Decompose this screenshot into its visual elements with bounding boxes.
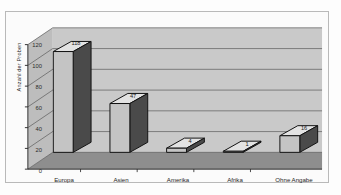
- y-tick-80: 80: [36, 84, 42, 90]
- y-tick-20: 20: [36, 147, 42, 153]
- bar-chart-3d: [6, 12, 328, 182]
- category-label-amerika: Amerika: [167, 176, 189, 183]
- bar-europa-face: [53, 52, 73, 153]
- chart-frame: Anzahl der Proben 120 100 80 60 40 20 0 …: [5, 11, 329, 183]
- bar-europa: [53, 41, 91, 152]
- y-tick-60: 60: [36, 105, 42, 111]
- category-label-asien: Asien: [113, 176, 128, 183]
- bar-asien-face: [110, 104, 130, 153]
- bar-asien-side: [130, 93, 148, 152]
- y-axis-tick-labels: 120 100 80 60 40 20 0: [20, 12, 42, 182]
- y-tick-0: 0: [39, 168, 42, 174]
- value-label-afrika: 1: [245, 141, 248, 147]
- value-label-ohne-angabe: 16: [301, 125, 307, 131]
- y-tick-120: 120: [32, 42, 42, 48]
- bar-ohne-angabe-face: [280, 136, 300, 153]
- bar-amerika-face: [167, 148, 187, 152]
- y-tick-40: 40: [36, 126, 42, 132]
- value-label-europa: 118: [72, 40, 81, 46]
- category-label-europa: Europa: [54, 176, 74, 183]
- x-axis-category-labels: Europa Asien Amerika Afrika Ohne Angabe: [6, 176, 328, 188]
- page-background: Anzahl der Proben 120 100 80 60 40 20 0 …: [0, 0, 341, 195]
- bar-europa-side: [73, 41, 91, 152]
- category-label-afrika: Afrika: [227, 176, 243, 183]
- bar-asien: [110, 93, 148, 152]
- value-label-amerika: 4: [188, 138, 191, 144]
- y-tick-100: 100: [32, 63, 42, 69]
- category-label-ohne-angabe: Ohne Angabe: [275, 176, 312, 183]
- bar-afrika-face: [223, 151, 243, 152]
- value-label-asien: 47: [130, 93, 136, 99]
- chart-floor: [28, 152, 322, 169]
